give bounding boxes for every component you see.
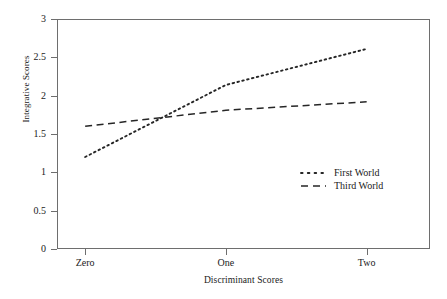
x-tick-label: Two <box>332 257 402 269</box>
legend-label: First World <box>334 166 379 179</box>
x-tick-mark <box>226 249 227 255</box>
y-tick-label: 3 <box>2 14 46 24</box>
y-tick-label: 0.5 <box>2 206 46 216</box>
x-tick-label: One <box>191 257 261 269</box>
y-axis-title: Integrative Scores <box>21 9 31 169</box>
legend-label: Third World <box>334 179 383 192</box>
x-axis-title: Discriminant Scores <box>57 275 430 285</box>
x-tick-label: Zero <box>50 257 120 269</box>
x-tick-mark <box>85 249 86 255</box>
legend-item: Third World <box>300 179 383 192</box>
y-tick-label: 1 <box>2 167 46 177</box>
y-tick-mark <box>51 249 57 250</box>
dotted-line-swatch <box>300 167 327 179</box>
plot-area <box>57 19 430 249</box>
y-tick-label: 2.5 <box>2 52 46 62</box>
legend-item: First World <box>300 166 383 179</box>
y-tick-label: 0 <box>2 244 46 254</box>
y-tick-label: 2 <box>2 91 46 101</box>
y-tick-label: 1.5 <box>2 129 46 139</box>
chart-legend: First WorldThird World <box>300 166 383 192</box>
chart-figure: Integrative Scores 00.511.522.53 ZeroOne… <box>0 0 447 299</box>
dashed-line-swatch <box>300 180 327 192</box>
x-tick-mark <box>367 249 368 255</box>
